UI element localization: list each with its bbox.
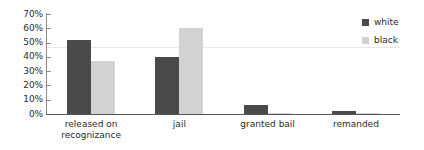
bar-black: [356, 113, 380, 114]
plot-area: [47, 14, 400, 114]
y-tick-text: 10%: [23, 95, 47, 104]
bar-white: [244, 105, 268, 114]
bar-group: [155, 14, 203, 114]
x-axis-label: remanded: [312, 119, 400, 130]
legend: whiteblack: [362, 15, 399, 51]
legend-label: black: [374, 36, 398, 45]
bar-white: [332, 111, 356, 114]
legend-item: black: [362, 33, 399, 47]
y-tick-text: 70%: [23, 10, 47, 19]
bar-black: [91, 61, 115, 114]
legend-swatch-icon: [362, 19, 369, 26]
y-tick-text: 50%: [23, 38, 47, 47]
bar-white: [67, 40, 91, 114]
bar-black: [268, 113, 292, 114]
bar-black: [179, 28, 203, 114]
legend-label: white: [374, 18, 399, 27]
x-axis-label: jail: [135, 119, 223, 130]
y-tick-text: 30%: [23, 67, 47, 76]
bar-chart: 70%60%50%40%30%20%10%0% released on reco…: [0, 0, 424, 150]
bar-group: [244, 14, 292, 114]
x-axis-label: granted bail: [224, 119, 312, 130]
bar-group: [67, 14, 115, 114]
y-tick-text: 40%: [23, 52, 47, 61]
x-axis-label: released on recognizance: [47, 119, 135, 141]
y-tick-text: 20%: [23, 81, 47, 90]
y-tick-text: 60%: [23, 24, 47, 33]
legend-item: white: [362, 15, 399, 29]
legend-swatch-icon: [362, 37, 369, 44]
x-axis-baseline: [46, 114, 400, 115]
bar-white: [155, 57, 179, 114]
y-tick-text: 0%: [29, 110, 47, 119]
